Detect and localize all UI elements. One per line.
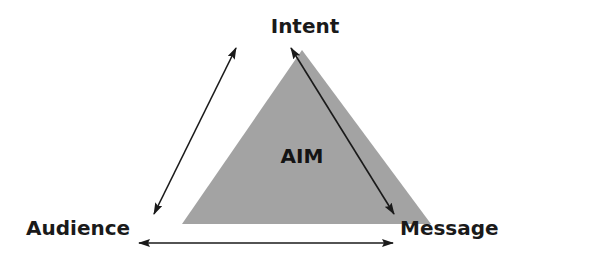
node-label-message: Message	[400, 218, 499, 238]
node-label-audience: Audience	[26, 218, 130, 238]
aim-triangle	[182, 50, 431, 224]
center-label-aim: AIM	[262, 146, 342, 166]
node-label-intent: Intent	[265, 16, 345, 36]
